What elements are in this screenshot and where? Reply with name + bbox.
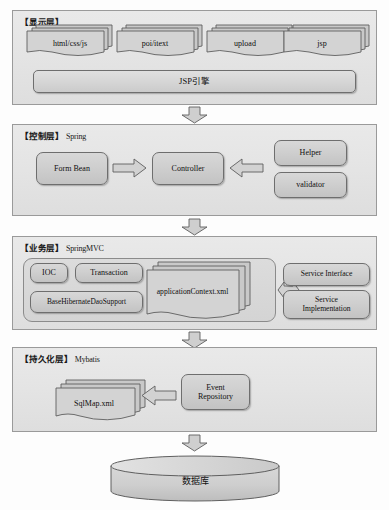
box-base-hibernate-dao-support: BaseHibernateDaoSupport (30, 291, 143, 313)
box-base-hibernate-dao-support-label: BaseHibernateDaoSupport (47, 298, 126, 307)
flow-arrow-persistence-to-database (181, 434, 208, 452)
box-transaction-label: Transaction (90, 268, 127, 277)
event-repo-line2: Repository (198, 392, 233, 401)
doc-stack-upload-label: upload (206, 39, 284, 48)
doc-stack-poi-itext: poi/itext (116, 24, 204, 54)
box-validator: validator (274, 172, 347, 198)
doc-stack-jsp: jsp (283, 24, 371, 54)
event-repo-line1: Event (206, 383, 225, 392)
service-impl-line1: Service (315, 295, 338, 304)
doc-stack-application-context-xml-label: applicationContext.xml (145, 287, 240, 296)
box-form-bean-label: Form Bean (54, 164, 90, 173)
doc-stack-jsp-label: jsp (283, 39, 361, 48)
flow-arrow-control-to-business (181, 218, 208, 236)
flow-arrow-presentation-to-control (181, 106, 208, 124)
arrow-formbean-to-controller (112, 158, 147, 178)
layer-business-label-tech: SpringMVC (66, 244, 104, 253)
jsp-engine-label: JSP引擎 (179, 76, 210, 86)
architecture-diagram: 【显示层】 html/css/js poi/itext (0, 0, 389, 510)
box-controller: Controller (152, 152, 224, 185)
service-impl-line2: Implementation (302, 304, 350, 313)
box-helper: Helper (274, 140, 347, 166)
box-service-implementation: Service Implementation (283, 290, 370, 319)
box-event-repository-label: Event Repository (198, 383, 233, 402)
layer-persistence-label: 【持久化层】 Mybatis (20, 352, 100, 364)
box-service-interface-label: Service Interface (301, 270, 353, 279)
box-controller-label: Controller (172, 164, 205, 173)
doc-stack-html-css-js: html/css/js (26, 24, 114, 54)
doc-stack-poi-itext-label: poi/itext (116, 39, 194, 48)
box-form-bean: Form Bean (36, 152, 108, 185)
box-ioc-label: IOC (42, 268, 56, 277)
doc-stack-sqlmap-xml-label: SqlMap.xml (54, 399, 134, 408)
box-ioc: IOC (30, 263, 68, 283)
box-service-interface: Service Interface (283, 263, 370, 286)
layer-persistence-label-cn: 【持久化层】 (20, 354, 73, 364)
doc-stack-html-css-js-label: html/css/js (26, 39, 114, 48)
doc-stack-upload: upload (206, 24, 294, 54)
layer-business-label-cn: 【业务层】 (20, 243, 64, 253)
layer-business-label: 【业务层】 SpringMVC (20, 241, 104, 253)
box-service-implementation-label: Service Implementation (302, 296, 350, 314)
box-validator-label: validator (296, 180, 324, 189)
database-cylinder-label: 数据库 (110, 474, 280, 487)
layer-control-label-cn: 【控制层】 (20, 131, 64, 141)
doc-stack-sqlmap-xml: SqlMap.xml (55, 379, 145, 417)
arrow-helper-to-controller (229, 158, 264, 178)
database-cylinder: 数据库 (110, 455, 280, 503)
jsp-engine-bar: JSP引擎 (33, 70, 356, 93)
layer-control-label-tech: Spring (66, 132, 86, 141)
doc-stack-application-context-xml: applicationContext.xml (146, 261, 250, 315)
layer-control-label: 【控制层】 Spring (20, 129, 86, 141)
box-transaction: Transaction (75, 263, 143, 283)
box-helper-label: Helper (300, 148, 322, 157)
layer-persistence-label-tech: Mybatis (75, 355, 100, 364)
arrow-repository-to-sqlmap (141, 385, 177, 406)
box-event-repository: Event Repository (181, 374, 250, 410)
